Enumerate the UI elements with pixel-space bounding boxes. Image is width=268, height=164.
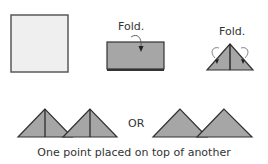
caption: One point placed on top of another [0,146,268,159]
folded-rectangle [107,42,164,70]
option-b-triangles [153,109,252,137]
square-paper [11,15,68,72]
fold-label-triangle: Fold. [219,26,245,37]
fold-label-rectangle: Fold. [118,21,144,32]
or-separator: OR [128,118,144,129]
option-a-triangles [18,109,117,137]
